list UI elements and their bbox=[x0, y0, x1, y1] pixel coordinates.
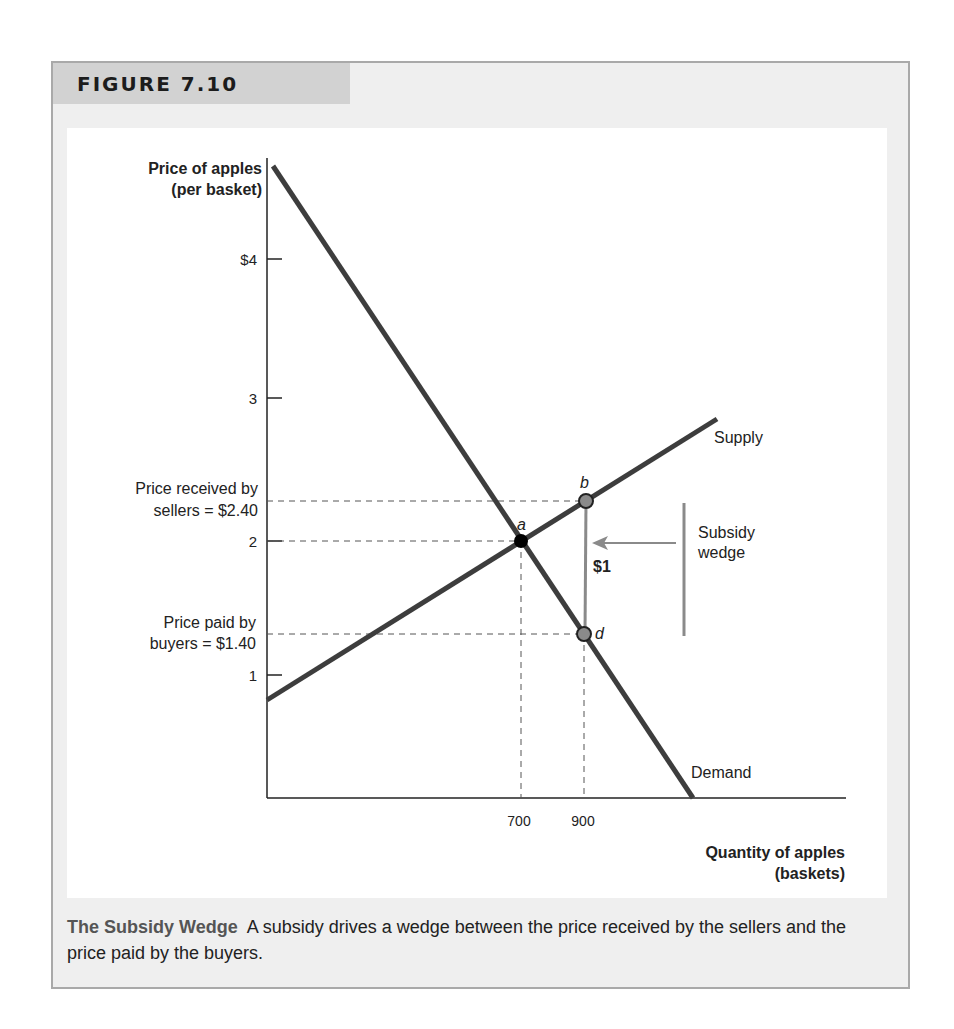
y-tick-label-4: $4 bbox=[240, 251, 257, 268]
x-axis-title-1: Quantity of apples bbox=[705, 844, 845, 861]
point-d-label: d bbox=[595, 625, 605, 642]
price-paid-line1: Price paid by bbox=[164, 614, 257, 631]
point-b bbox=[579, 494, 593, 508]
figure-caption: The Subsidy Wedge A subsidy drives a wed… bbox=[67, 914, 887, 966]
x-axis-title-2: (baskets) bbox=[775, 865, 845, 882]
demand-label: Demand bbox=[691, 764, 751, 781]
y-axis-title-1: Price of apples bbox=[148, 160, 262, 177]
y-tick-label-3: 3 bbox=[249, 390, 257, 407]
y-tick-label-1: 1 bbox=[249, 667, 257, 684]
x-tick-label-700: 700 bbox=[507, 813, 531, 829]
point-d bbox=[577, 627, 591, 641]
caption-title: The Subsidy Wedge bbox=[67, 917, 238, 937]
y-tick-label-2: 2 bbox=[249, 533, 257, 550]
point-a-label: a bbox=[517, 516, 526, 533]
x-tick-label-900: 900 bbox=[571, 813, 595, 829]
y-axis-title-2: (per basket) bbox=[171, 181, 262, 198]
point-b-label: b bbox=[580, 474, 589, 491]
price-received-line1: Price received by bbox=[135, 480, 258, 497]
point-a bbox=[514, 534, 528, 548]
wedge-amount: $1 bbox=[593, 558, 611, 575]
price-received-line2: sellers = $2.40 bbox=[153, 502, 258, 519]
wedge-label-1: Subsidy bbox=[698, 524, 755, 541]
wedge-line bbox=[585, 501, 586, 634]
chart: Price of apples (per basket) $4 3 2 1 Pr… bbox=[0, 0, 954, 1029]
wedge-label-2: wedge bbox=[697, 544, 745, 561]
supply-label: Supply bbox=[714, 429, 763, 446]
price-paid-line2: buyers = $1.40 bbox=[150, 635, 256, 652]
